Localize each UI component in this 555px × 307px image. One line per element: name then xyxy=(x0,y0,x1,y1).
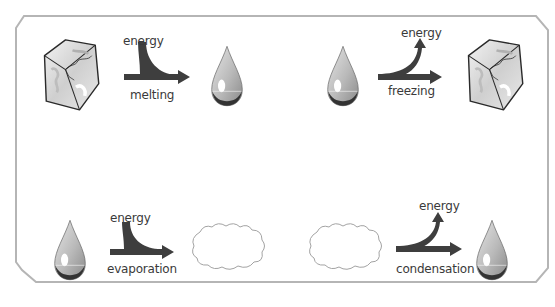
process-label-melting: melting xyxy=(130,88,174,102)
cloud-icon xyxy=(193,224,265,270)
diagram-frame xyxy=(0,0,555,307)
process-label-freezing: freezing xyxy=(388,84,435,98)
energy-label: energy xyxy=(110,211,151,225)
process-label-evaporation: evaporation xyxy=(107,262,177,276)
energy-label: energy xyxy=(401,26,442,40)
energy-label: energy xyxy=(419,199,460,213)
process-label-condensation: condensation xyxy=(396,262,474,276)
cloud-icon xyxy=(310,224,382,270)
energy-label: energy xyxy=(123,34,164,48)
